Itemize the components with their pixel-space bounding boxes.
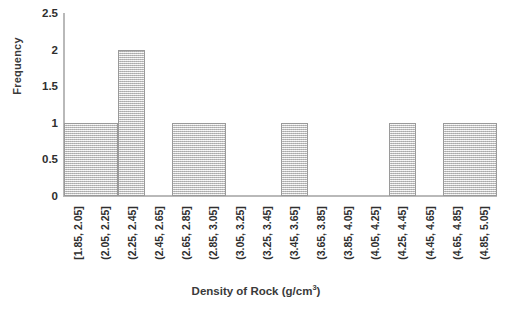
x-axis-tick-label-text: (4.25, 4.45] <box>396 206 408 260</box>
x-axis-tick-label: (3.25, 3.45] <box>253 199 280 277</box>
y-axis-tick-label: 1.5 <box>42 80 58 92</box>
y-axis-tick-label: 0.5 <box>42 153 58 165</box>
x-axis-tick-label-text: (2.85, 3.05] <box>207 206 219 260</box>
x-axis-title: Density of Rock (g/cm3) <box>0 283 512 297</box>
x-axis-tick-label-text: (4.45, 4.65] <box>423 206 435 260</box>
plot-area <box>64 13 497 196</box>
x-axis-title-suffix: ) <box>317 285 321 297</box>
x-axis-tick-label-text: (4.05, 4.25] <box>369 206 381 260</box>
x-axis-tick-label-text: (2.25, 2.45] <box>126 206 138 260</box>
x-axis-tick-label: (2.65, 2.85] <box>172 199 199 277</box>
histogram-bar <box>118 50 145 196</box>
y-axis-tick-label: 2.5 <box>42 7 58 19</box>
histogram-bar <box>172 123 226 196</box>
x-axis-tick-label: [1.85, 2.05] <box>64 199 91 277</box>
x-axis-tick-label-text: (3.85, 4.05] <box>342 206 354 260</box>
x-axis-tick-label-text: (3.05, 3.25] <box>234 206 246 260</box>
x-axis-tick-label: (2.85, 3.05] <box>199 199 226 277</box>
x-axis-tick-label-text: (2.05, 2.25] <box>99 206 111 260</box>
x-axis-tick-labels: [1.85, 2.05](2.05, 2.25](2.25, 2.45](2.4… <box>64 199 497 277</box>
x-axis-tick-label: (3.05, 3.25] <box>226 199 253 277</box>
x-axis-title-base: Density of Rock (g/cm <box>192 285 313 297</box>
histogram-bar <box>443 123 497 196</box>
y-axis-tick-label: 0 <box>52 190 58 202</box>
x-axis-tick-label-text: (3.65, 3.85] <box>315 206 327 260</box>
x-axis-tick-label-text: (4.85, 5.05] <box>477 206 489 260</box>
histogram-bar <box>64 123 118 196</box>
y-axis-tick-labels: 00.511.522.5 <box>24 13 58 196</box>
x-axis-tick-label: (4.05, 4.25] <box>362 199 389 277</box>
x-axis-tick-label-text: (4.65, 4.85] <box>450 206 462 260</box>
y-axis-title: Frequency <box>11 16 23 116</box>
x-axis-tick-label: (4.85, 5.05] <box>470 199 497 277</box>
x-axis-tick-label-text: (2.65, 2.85] <box>180 206 192 260</box>
x-axis-tick-label: (2.05, 2.25] <box>91 199 118 277</box>
histogram-bar <box>389 123 416 196</box>
x-axis-tick-label-text: (2.45, 2.65] <box>153 206 165 260</box>
x-axis-tick-label: (4.45, 4.65] <box>416 199 443 277</box>
x-axis-tick-label: (2.25, 2.45] <box>118 199 145 277</box>
x-axis-tick-label: (3.45, 3.65] <box>281 199 308 277</box>
y-axis-tick-label: 1 <box>52 117 58 129</box>
x-axis-tick-label-text: (3.25, 3.45] <box>261 206 273 260</box>
x-axis-tick-label-text: [1.85, 2.05] <box>72 206 84 260</box>
x-axis-tick-label-text: (3.45, 3.65] <box>288 206 300 260</box>
x-axis-tick-label: (3.85, 4.05] <box>335 199 362 277</box>
y-axis-tick-label: 2 <box>52 44 58 56</box>
histogram-bar <box>281 123 308 196</box>
x-axis-tick-label: (4.65, 4.85] <box>443 199 470 277</box>
x-axis-tick-label: (2.45, 2.65] <box>145 199 172 277</box>
histogram-chart: Frequency 00.511.522.5 [1.85, 2.05](2.05… <box>0 0 512 309</box>
x-axis-tick-label: (4.25, 4.45] <box>389 199 416 277</box>
x-axis-tick-label: (3.65, 3.85] <box>308 199 335 277</box>
